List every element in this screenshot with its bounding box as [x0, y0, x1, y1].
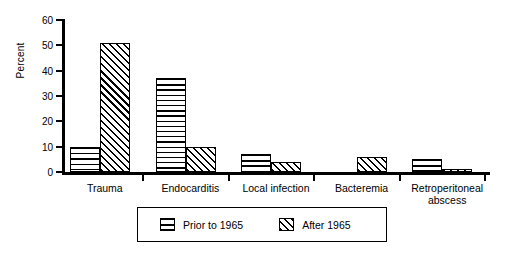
x-axis-label-retroperitoneal: Retroperitoneal abscess [394, 182, 500, 206]
legend-item-after-1965: After 1965 [279, 218, 350, 231]
bar-retroperitoneal-after-1965 [442, 169, 472, 172]
x-axis-tick [484, 172, 486, 181]
horizontal-lines-swatch [160, 218, 175, 231]
y-tick-mark [56, 19, 65, 21]
diagonal-hatch-swatch [279, 218, 294, 231]
bar-endocarditis-prior-to-1965 [156, 78, 186, 172]
y-tick-label: 30 [42, 91, 53, 102]
plot-area: 0102030405060 [62, 20, 490, 172]
x-axis-tick [228, 172, 230, 181]
y-tick-label: 60 [42, 15, 53, 26]
y-tick-mark [56, 70, 65, 72]
legend-item-prior-to-1965: Prior to 1965 [160, 218, 243, 231]
y-tick-label: 10 [42, 141, 53, 152]
bar-trauma-after-1965 [100, 43, 130, 172]
legend-items: Prior to 1965After 1965 [138, 208, 386, 241]
x-axis-tick [142, 172, 144, 181]
y-tick-label: 20 [42, 116, 53, 127]
bar-local-infection-after-1965 [271, 162, 301, 172]
bar-chart: Percent 0102030405060 TraumaEndocarditis… [0, 0, 505, 264]
legend-label: After 1965 [302, 219, 350, 231]
y-tick-mark [56, 120, 65, 122]
legend: Prior to 1965After 1965 [137, 207, 387, 242]
y-tick-mark [56, 44, 65, 46]
bar-local-infection-prior-to-1965 [241, 154, 271, 172]
bar-retroperitoneal-prior-to-1965 [412, 159, 442, 172]
y-tick-label: 40 [42, 65, 53, 76]
x-axis-line [62, 172, 490, 175]
bar-trauma-prior-to-1965 [70, 147, 100, 172]
legend-label: Prior to 1965 [183, 219, 243, 231]
x-axis-tick [313, 172, 315, 181]
y-tick-mark [56, 171, 65, 173]
x-axis-tick [399, 172, 401, 181]
y-tick-label: 50 [42, 40, 53, 51]
y-tick-mark [56, 146, 65, 148]
y-tick-mark [56, 95, 65, 97]
y-axis-label: Percent [15, 21, 26, 101]
bar-bacteremia-after-1965 [357, 157, 387, 172]
bar-endocarditis-after-1965 [186, 147, 216, 172]
y-tick-label: 0 [47, 167, 53, 178]
